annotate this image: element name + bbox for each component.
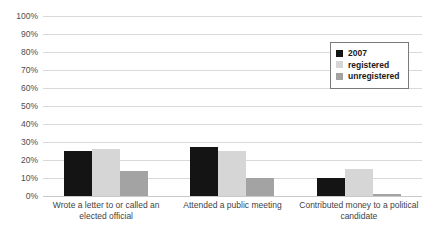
y-axis-tick-label: 0% <box>2 192 38 201</box>
legend-item-label: registered <box>348 61 389 70</box>
y-axis-tick-label: 80% <box>2 48 38 57</box>
legend-item: unregistered <box>336 72 400 81</box>
legend-item-label: 2007 <box>348 49 367 58</box>
legend-swatch-icon <box>336 61 343 68</box>
bar <box>345 169 373 196</box>
bar <box>317 178 345 196</box>
y-axis-tick-label: 40% <box>2 120 38 129</box>
chart-legend: 2007 registered unregistered <box>330 42 409 89</box>
y-axis-tick-label: 90% <box>2 30 38 39</box>
y-axis-tick-label: 60% <box>2 84 38 93</box>
bar <box>92 149 120 196</box>
bar <box>190 147 218 196</box>
x-axis-category-label: Wrote a letter to or called an elected o… <box>43 200 169 223</box>
bar <box>218 151 246 196</box>
bar <box>64 151 92 196</box>
legend-swatch-icon <box>336 73 343 80</box>
y-axis-tick-label: 100% <box>2 12 38 21</box>
bar-group <box>43 16 169 196</box>
legend-swatch-icon <box>336 50 343 57</box>
bar <box>120 171 148 196</box>
legend-item: registered <box>336 61 400 70</box>
bar <box>373 194 401 196</box>
y-axis-tick-label: 30% <box>2 138 38 147</box>
legend-item-label: unregistered <box>348 72 400 81</box>
y-axis-tick-label: 70% <box>2 66 38 75</box>
y-axis-tick-label: 10% <box>2 174 38 183</box>
x-axis-category-label: Attended a public meeting <box>169 200 295 211</box>
y-axis-tick-label: 20% <box>2 156 38 165</box>
bar-group <box>169 16 295 196</box>
gridline <box>43 196 422 197</box>
bar-chart: 100%90%80%70%60%50%40%30%20%10%0% Wrote … <box>0 0 430 226</box>
legend-item: 2007 <box>336 49 400 58</box>
bar <box>246 178 274 196</box>
y-axis-tick-label: 50% <box>2 102 38 111</box>
x-axis-category-label: Contributed money to a political candida… <box>296 200 422 223</box>
